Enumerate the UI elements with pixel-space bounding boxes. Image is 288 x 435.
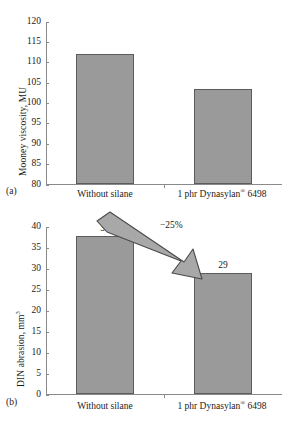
x-axis-separator-tick [164, 185, 165, 188]
category-label-a-1: 1 phr Dynasylan® 6498 [160, 189, 284, 199]
plot-area-a: 80859095100105110115120 [46, 22, 282, 185]
category-label-b-1-text: 1 phr Dynasylan [177, 401, 240, 411]
chart-panel-a: (a) Mooney viscosity, MU 808590951001051… [0, 0, 288, 205]
panel-tag-b: (b) [6, 397, 17, 407]
y-tick-mark [46, 269, 49, 270]
bar-value-label-1-1: 29 [203, 260, 243, 270]
bar-value-label-1-0: 38 [85, 223, 125, 233]
y-axis-label-b-sup: 3 [14, 311, 21, 314]
y-tick-label: 25 [32, 284, 42, 294]
y-tick-label: 120 [27, 16, 41, 26]
y-tick-label: 15 [32, 326, 42, 336]
y-tick-label: 110 [27, 56, 41, 66]
category-label-b-0-text: Without silane [77, 401, 132, 411]
y-tick-mark [46, 290, 49, 291]
category-label-a-1-tail: 6498 [245, 189, 266, 199]
plot-area-b: 05101520253035403829 [46, 227, 282, 395]
y-tick-mark [46, 123, 49, 124]
category-label-a-1-text: 1 phr Dynasylan [177, 189, 240, 199]
y-tick-mark [46, 374, 49, 375]
bar-1-0 [76, 236, 134, 394]
chart-panel-b: (b) DIN abrasion, mm3 051015202530354038… [0, 205, 288, 435]
y-tick-mark [46, 22, 49, 23]
y-tick-label: 5 [36, 368, 41, 378]
category-label-b-0: Without silane [55, 401, 155, 411]
y-tick-mark [46, 62, 49, 63]
y-tick-label: 20 [32, 305, 42, 315]
y-tick-label: 85 [32, 158, 42, 168]
y-tick-mark [46, 332, 49, 333]
y-tick-mark [46, 164, 49, 165]
y-tick-label: 115 [27, 36, 41, 46]
bar-1-1 [194, 273, 252, 394]
figure-two-bar-charts: (a) Mooney viscosity, MU 808590951001051… [0, 0, 288, 435]
y-tick-mark [46, 185, 49, 186]
y-tick-mark [46, 144, 49, 145]
category-label-a-0-text: Without silane [77, 189, 132, 199]
category-label-b-1: 1 phr Dynasylan® 6498 [160, 401, 284, 411]
y-tick-label: 105 [27, 77, 41, 87]
bar-0-0 [76, 54, 134, 184]
y-tick-mark [46, 248, 49, 249]
y-tick-mark [46, 311, 49, 312]
category-label-a-0: Without silane [55, 189, 155, 199]
y-tick-mark [46, 103, 49, 104]
category-label-b-1-tail: 6498 [245, 401, 266, 411]
y-tick-label: 10 [32, 347, 42, 357]
y-tick-label: 35 [32, 242, 42, 252]
y-tick-mark [46, 227, 49, 228]
y-tick-label: 90 [32, 138, 42, 148]
y-tick-mark [46, 42, 49, 43]
y-tick-mark [46, 395, 49, 396]
y-tick-label: 95 [32, 117, 42, 127]
y-tick-mark [46, 83, 49, 84]
bar-0-1 [194, 89, 252, 184]
panel-tag-a: (a) [6, 186, 17, 196]
y-axis-label-b: DIN abrasion, mm3 [16, 311, 26, 387]
y-axis-label-b-text: DIN abrasion, mm [16, 314, 26, 387]
y-tick-label: 100 [27, 97, 41, 107]
y-tick-label: 40 [32, 221, 42, 231]
y-tick-label: 80 [32, 179, 42, 189]
y-tick-label: 30 [32, 263, 42, 273]
y-tick-mark [46, 353, 49, 354]
y-tick-label: 0 [36, 389, 41, 399]
x-axis-separator-tick [164, 395, 165, 398]
